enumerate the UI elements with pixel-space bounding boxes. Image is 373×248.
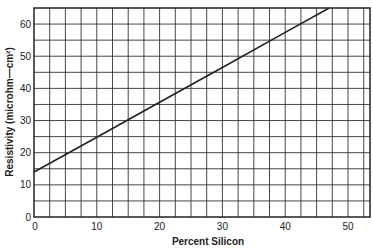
x-tick-label: 30 xyxy=(217,221,229,232)
grid-lines xyxy=(34,8,370,217)
x-tick-label: 50 xyxy=(342,221,354,232)
y-tick-label: 20 xyxy=(20,147,32,158)
y-tick-label: 40 xyxy=(20,83,32,94)
x-tick-label: 10 xyxy=(91,221,103,232)
x-tick-label: 20 xyxy=(154,221,166,232)
y-tick-label: 60 xyxy=(20,19,32,30)
x-tick-label: 40 xyxy=(280,221,292,232)
y-tick-label: 30 xyxy=(20,115,32,126)
x-axis-ticks: 01020304050 xyxy=(32,221,354,232)
y-axis-ticks: 0102030405060 xyxy=(20,19,32,223)
y-axis-label: Resistivity (microhm—cm²) xyxy=(4,47,15,176)
plot-frame xyxy=(34,8,370,217)
y-tick-label: 0 xyxy=(25,212,31,223)
resistivity-chart: 01020304050 0102030405060 Percent Silico… xyxy=(0,0,373,248)
x-axis-label: Percent Silicon xyxy=(172,236,244,247)
y-tick-label: 10 xyxy=(20,179,32,190)
x-tick-label: 0 xyxy=(32,221,38,232)
y-tick-label: 50 xyxy=(20,51,32,62)
